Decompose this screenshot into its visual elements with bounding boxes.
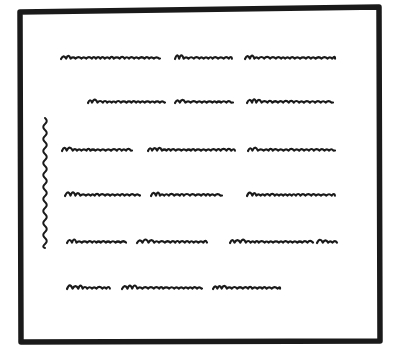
squiggle-word	[175, 55, 232, 59]
document-sketch: Hand-drawn sketch of a document page wit…	[0, 0, 398, 355]
text-row	[67, 240, 337, 243]
squiggle-word	[247, 193, 335, 196]
squiggle-word	[122, 285, 202, 289]
margin-wavy-mark	[43, 118, 47, 248]
margin-squiggle	[43, 118, 47, 248]
squiggle-word	[175, 100, 233, 103]
squiggle-word	[67, 240, 126, 243]
squiggle-word	[245, 56, 335, 59]
squiggle-word	[137, 240, 207, 243]
squiggle-word	[151, 193, 222, 196]
squiggle-word	[230, 240, 313, 243]
squiggle-word	[317, 240, 337, 243]
text-row	[88, 99, 333, 103]
squiggle-word	[247, 99, 333, 103]
squiggle-word	[248, 148, 335, 151]
placeholder-text-lines	[61, 55, 337, 289]
squiggle-word	[61, 56, 160, 59]
sketch-canvas	[0, 0, 398, 355]
squiggle-word	[213, 286, 280, 289]
squiggle-word	[148, 148, 235, 151]
text-row	[67, 285, 280, 289]
squiggle-word	[65, 192, 140, 196]
text-row	[65, 192, 335, 196]
squiggle-word	[62, 148, 132, 151]
squiggle-word	[88, 100, 165, 103]
text-row	[62, 148, 335, 151]
squiggle-word	[67, 285, 110, 289]
text-row	[61, 55, 335, 59]
